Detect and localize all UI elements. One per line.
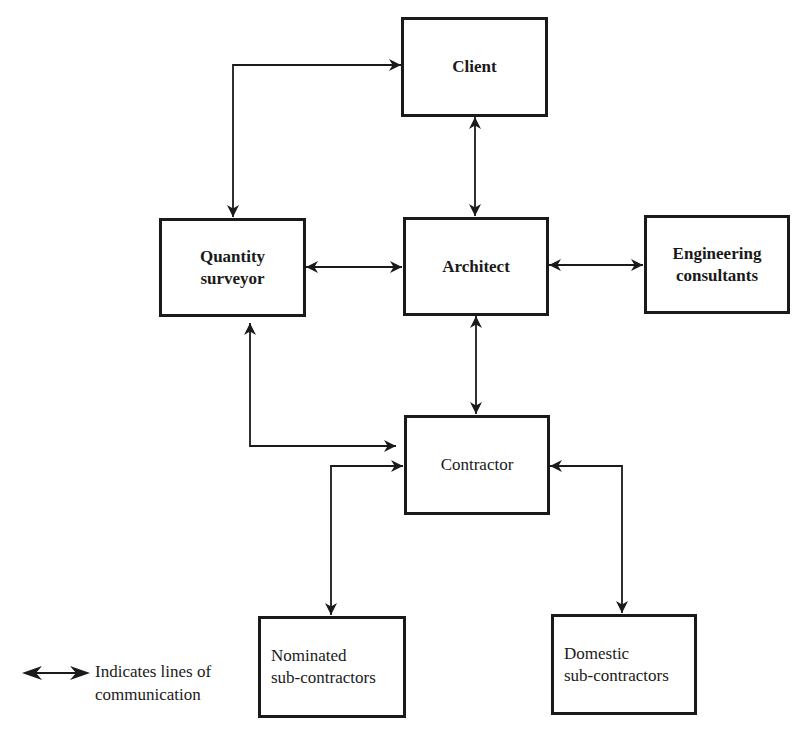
- node-client-label: Client: [452, 56, 496, 78]
- node-quantity-surveyor-label: Quantity surveyor: [200, 246, 265, 290]
- node-engineering-consultants-label: Engineering consultants: [673, 243, 762, 287]
- node-client: Client: [401, 17, 548, 117]
- node-quantity-surveyor: Quantity surveyor: [159, 218, 306, 317]
- edge-qs-client: [233, 65, 401, 217]
- node-domestic-sub-contractors-label: Domestic sub-contractors: [564, 643, 669, 687]
- node-architect-label: Architect: [442, 256, 510, 278]
- node-nominated-sub-contractors-label: Nominated sub-contractors: [271, 645, 376, 689]
- node-engineering-consultants: Engineering consultants: [644, 215, 790, 314]
- node-nominated-sub-contractors: Nominated sub-contractors: [258, 616, 406, 718]
- node-domestic-sub-contractors: Domestic sub-contractors: [551, 614, 697, 715]
- node-architect: Architect: [403, 217, 549, 316]
- double-headed-arrow-icon: [22, 660, 90, 684]
- legend: Indicates lines of communication: [22, 660, 211, 706]
- edge-contractor-nominated: [331, 466, 403, 615]
- edge-contractor-domestic: [550, 466, 622, 613]
- node-contractor: Contractor: [404, 415, 550, 515]
- edge-qs-contractor: [250, 323, 396, 446]
- legend-text: Indicates lines of communication: [95, 660, 211, 706]
- node-contractor-label: Contractor: [441, 454, 514, 476]
